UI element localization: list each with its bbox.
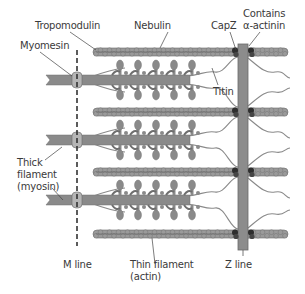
leader-nebulin	[160, 32, 168, 48]
label-alpha-actinin: α-actinin	[243, 20, 285, 32]
label-nebulin: Nebulin	[134, 20, 171, 32]
label-contains: Contains	[243, 8, 285, 20]
label-capz: CapZ	[211, 20, 237, 32]
label-thick-2: filament	[17, 169, 57, 181]
thick-filament	[46, 180, 200, 220]
leader-alpha-actinin	[249, 32, 260, 46]
label-thin-2: (actin)	[130, 271, 161, 283]
label-thin-1: Thin filament	[130, 259, 194, 271]
leader-capz	[230, 32, 236, 50]
thick-filaments	[46, 60, 200, 220]
leader-tropomodulin	[70, 32, 96, 50]
thin-filament	[93, 168, 288, 176]
label-titin: Titin	[213, 86, 234, 98]
thick-filament	[46, 120, 200, 160]
z-line	[238, 44, 248, 250]
leader-titin	[212, 68, 218, 85]
thick-filament	[46, 60, 200, 100]
thin-filament	[93, 230, 288, 238]
leader-myomesin	[40, 52, 72, 76]
label-m-line: M line	[63, 259, 92, 271]
label-myomesin: Myomesin	[20, 40, 69, 52]
label-z-line: Z line	[225, 259, 252, 271]
thin-filament	[93, 48, 288, 56]
label-thick-1: Thick	[17, 157, 43, 169]
thin-filament	[93, 108, 288, 116]
label-tropomodulin: Tropomodulin	[35, 20, 100, 32]
leader-thick	[45, 147, 62, 160]
label-thick-3: (myosin)	[17, 181, 59, 193]
